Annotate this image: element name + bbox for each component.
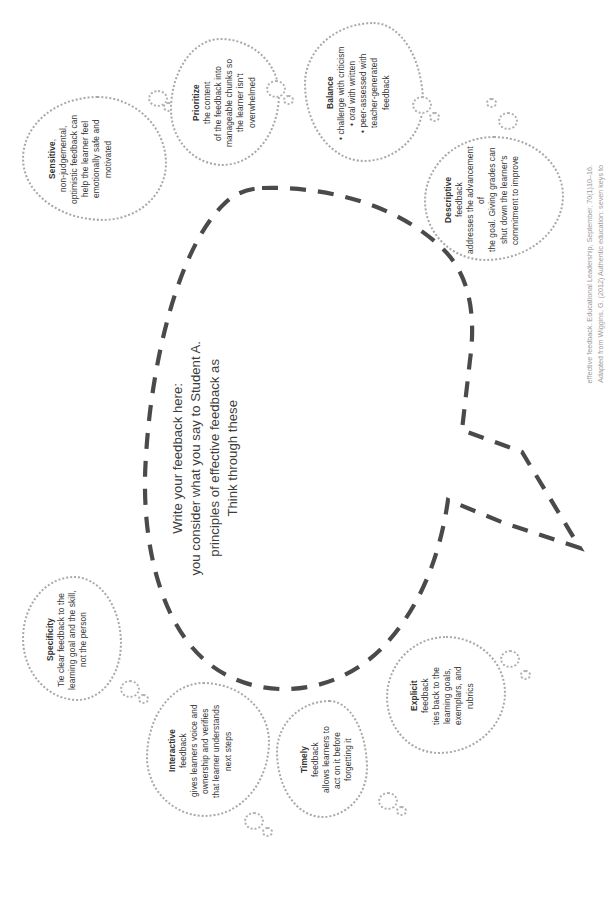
thought-bubble-timely-trail-dot-1 — [378, 792, 398, 810]
bubble-title-descriptive: Descriptive — [443, 177, 453, 223]
thought-bubble-interactive-text: Interactive feedback gives learners voic… — [156, 692, 260, 810]
bubble-body-descriptive: feedback addresses the advancement of th… — [454, 146, 519, 254]
attribution-line-2-prefix: effective feedback. — [585, 322, 594, 384]
thought-bubble-specificity-text: Specificity Tie clear feedback to the le… — [34, 586, 112, 694]
bubble-body-prioritize: the content of the feedback into managea… — [202, 59, 256, 147]
thought-bubble-balance-text: Balance • challenge with criticism • ora… — [314, 32, 414, 154]
thought-bubble-descriptive-text: Descriptive feedback addresses the advan… — [432, 146, 556, 254]
bubble-title-sensitive: Sensitive — [47, 141, 57, 179]
thought-bubble-interactive-trail-dot-2 — [262, 827, 273, 837]
bubble-title-sep-sensitive: , — [47, 139, 57, 141]
bubble-title-balance: Balance — [325, 77, 335, 110]
thought-bubble-sensitive-text: Sensitive, non-judgemental, optimistic f… — [36, 104, 154, 214]
bubble-body-specificity: Tie clear feedback to the learning goal … — [56, 590, 88, 690]
centre-prompt-line-2: principles of effective feedback as — [208, 359, 221, 557]
centre-prompt-line-1: Think through these — [226, 400, 239, 517]
thought-bubble-prioritize-text: Prioritize the content of the feedback i… — [180, 48, 272, 158]
bubble-title-interactive: Interactive — [167, 730, 177, 773]
bubble-title-prioritize: Prioritize — [191, 85, 201, 122]
worksheet-canvas: Think through these principles of effect… — [0, 0, 608, 913]
thought-bubble-specificity-trail-dot-1 — [120, 680, 140, 698]
centre-prompt: Think through these principles of effect… — [150, 258, 260, 658]
thought-bubble-interactive-trail-dot-1 — [244, 812, 264, 830]
thought-bubble-balance-trail-dot-2 — [429, 112, 440, 122]
thought-bubble-descriptive-trail-dot-2 — [486, 98, 497, 108]
thought-bubble-explicit-text: Explicit feedback ties back to the learn… — [398, 646, 498, 746]
thought-bubble-timely-text: Timely feedback allows learners to act o… — [288, 710, 358, 810]
thought-bubble-descriptive-trail-dot-1 — [498, 112, 518, 130]
thought-bubble-specificity-trail-dot-2 — [138, 694, 149, 704]
source-attribution: Adapted from Wiggins, G. (2012) Authenti… — [566, 165, 606, 395]
bubble-title-specificity: Specificity — [45, 619, 55, 662]
bubble-body-explicit: feedback ties back to the learning goals… — [420, 667, 474, 726]
thought-bubble-explicit-trail-dot-2 — [520, 670, 531, 680]
attribution-journal-title: Educational Leadership — [585, 247, 594, 322]
thought-bubble-prioritize-trail-dot-2 — [283, 95, 294, 105]
bubble-title-explicit: Explicit — [409, 681, 419, 712]
bubble-body-interactive: feedback gives learners voice and owners… — [178, 704, 232, 797]
bubble-body-balance: • challenge with criticism • oral with w… — [336, 46, 390, 140]
attribution-line-1: Adapted from Wiggins, G. (2012) Authenti… — [597, 165, 604, 383]
centre-prompt-line-3: you consider what you say to Student A. — [189, 341, 202, 576]
attribution-line-2-suffix: , September, 70(1)10–16. — [585, 165, 594, 247]
attribution-line-2: effective feedback. Educational Leadersh… — [586, 165, 593, 383]
thought-bubble-timely-trail-dot-2 — [396, 806, 407, 816]
bubble-body-sensitive: non-judgemental, optimistic feedback can… — [58, 114, 112, 203]
thought-bubble-explicit-trail-dot-1 — [500, 650, 520, 668]
thought-bubble-balance-trail-dot-1 — [412, 96, 432, 114]
centre-prompt-line-4: Write your feedback here: — [171, 383, 184, 534]
bubble-body-timely: feedback allows learners to act on it be… — [310, 727, 353, 794]
bubble-title-timely: Timely — [299, 747, 309, 774]
